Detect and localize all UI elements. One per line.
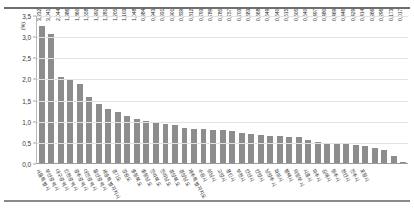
bar-value-label: 0,683 <box>245 9 251 21</box>
bar-value-label: 1,392 <box>93 9 99 21</box>
bar <box>381 150 387 163</box>
gridline <box>37 37 408 38</box>
gridline <box>37 101 408 102</box>
plot-area: 3,2323,0412,0441,9861,8601,5581,3921,281… <box>36 16 408 164</box>
bar <box>239 133 245 163</box>
bar-value-label: 0,615 <box>283 9 289 21</box>
x-axis-labels: 서울특별시부산광역시대구광역시인천광역시광주광역시대전광역시울산광역시세종특별자… <box>36 166 408 202</box>
bar <box>229 131 235 163</box>
bar <box>353 145 359 163</box>
bar <box>324 143 330 163</box>
y-tick-label: 3,5 <box>22 13 31 20</box>
bar <box>86 97 92 163</box>
y-tick-label: 2,5 <box>22 55 31 62</box>
x-label-cell: 포항시 <box>360 166 370 202</box>
bar <box>220 130 226 163</box>
bar <box>134 119 140 163</box>
bar-value-label: 1,860 <box>74 9 80 21</box>
bar-value-label: 0,296 <box>378 9 384 21</box>
bar <box>77 84 83 163</box>
bar <box>315 142 321 163</box>
bar <box>201 129 207 163</box>
bar-value-label: 0,429 <box>350 9 356 21</box>
bar-value-label: 0,943 <box>150 9 156 21</box>
bar <box>400 162 406 163</box>
bar <box>124 116 130 163</box>
bar-value-label: 3,232 <box>36 9 42 21</box>
bar <box>296 137 302 163</box>
x-label-cell <box>398 166 408 202</box>
bar-value-label: 0,931 <box>159 9 165 21</box>
gridline <box>37 143 408 144</box>
bar-value-label: 1,048 <box>131 9 137 21</box>
y-tick-label: 1,0 <box>22 118 31 125</box>
y-tick-label: 2,0 <box>22 76 31 83</box>
bar-value-label: 1,986 <box>64 9 70 21</box>
x-label-cell <box>370 166 380 202</box>
y-tick-label: 1,5 <box>22 97 31 104</box>
bar <box>105 109 111 163</box>
bar-value-label: 1,281 <box>102 9 108 21</box>
bar <box>391 156 397 163</box>
bar <box>191 129 197 163</box>
bar-value-label: 0,793 <box>198 9 204 21</box>
chart-figure: (%) 0,00,51,01,52,02,53,03,5 3,2323,0412… <box>0 0 414 211</box>
bar-value-label: 1,205 <box>112 9 118 21</box>
x-label-cell: 화성시 <box>274 166 284 202</box>
bar <box>210 130 216 163</box>
bar <box>172 125 178 163</box>
bar <box>277 136 283 163</box>
bar-value-label: 0,173 <box>388 9 394 21</box>
bar <box>267 136 273 163</box>
bar <box>248 134 254 163</box>
x-label-cell: 안양시 <box>255 166 265 202</box>
bar <box>58 77 64 163</box>
gridline <box>37 79 408 80</box>
bar <box>286 137 292 163</box>
bar-value-label: 1,558 <box>83 9 89 21</box>
bar <box>372 148 378 163</box>
bar-value-label: 0,480 <box>321 9 327 21</box>
bar-value-label: 0,640 <box>274 9 280 21</box>
bar-value-label: 0,366 <box>369 9 375 21</box>
bar-value-label: 0,984 <box>140 9 146 21</box>
gridline <box>37 58 408 59</box>
bar <box>334 143 340 163</box>
bar-value-label: 0,017 <box>397 9 403 21</box>
bar <box>343 144 349 163</box>
x-label-cell <box>389 166 399 202</box>
gridline <box>37 16 408 17</box>
bar-value-label: 0,757 <box>226 9 232 21</box>
y-tick-label: 3,0 <box>22 34 31 41</box>
y-axis: 0,00,51,01,52,02,53,03,5 <box>0 16 36 165</box>
y-tick-label: 0,5 <box>22 139 31 146</box>
bar <box>362 146 368 164</box>
bar-value-label: 1,103 <box>121 9 127 21</box>
y-tick-label: 0,0 <box>22 161 31 168</box>
bar-value-label: 0,901 <box>169 9 175 21</box>
bar-value-label: 0,649 <box>264 9 270 21</box>
bar-value-label: 0,605 <box>293 9 299 21</box>
bar-value-label: 0,839 <box>178 9 184 21</box>
bar-value-label: 0,469 <box>331 9 337 21</box>
x-label-cell <box>379 166 389 202</box>
bar-value-label: 3,041 <box>45 9 51 21</box>
bar-value-label: 0,785 <box>217 9 223 21</box>
bar-value-label: 0,789 <box>207 9 213 21</box>
bar-value-label: 0,812 <box>188 9 194 21</box>
bar-value-label: 0,414 <box>359 9 365 21</box>
bar-value-label: 0,540 <box>302 9 308 21</box>
bar <box>258 135 264 163</box>
bar-value-label: 0,497 <box>312 9 318 21</box>
bar-value-label: 0,446 <box>340 9 346 21</box>
bar-value-label: 0,703 <box>236 9 242 21</box>
bar <box>115 112 121 163</box>
bar <box>96 104 102 163</box>
x-label-cell: 충청북도 <box>131 166 141 202</box>
x-label-cell: 경기도 <box>112 166 122 202</box>
bar-value-label: 0,668 <box>255 9 261 21</box>
gridline <box>37 122 408 123</box>
bar <box>182 128 188 163</box>
bar-value-label: 2,044 <box>55 9 61 21</box>
